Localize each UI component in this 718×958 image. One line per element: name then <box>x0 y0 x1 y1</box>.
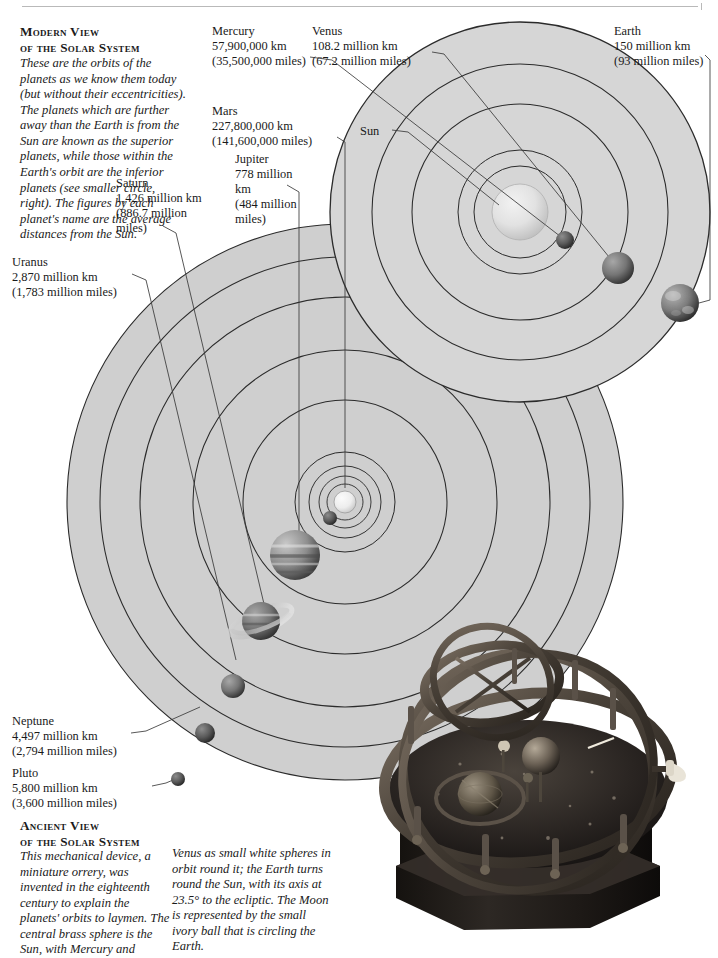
label-pluto-name: Pluto <box>12 766 117 781</box>
modern-view-title-line2: of the Solar System <box>20 40 190 56</box>
label-saturn-name: Saturn <box>116 176 202 191</box>
label-jupiter: Jupiter 778 million km (484 million mile… <box>235 152 307 226</box>
inset-sun <box>492 184 548 240</box>
label-neptune: Neptune 4,497 million km (2,794 million … <box>12 714 117 759</box>
label-venus-miles: (67.2 million miles) <box>312 54 411 69</box>
label-uranus-name: Uranus <box>12 255 117 270</box>
label-mars-km: 227,800,000 km <box>212 119 312 134</box>
label-earth: Earth 150 million km (93 million miles) <box>614 24 703 69</box>
inset-inner-system <box>330 22 710 402</box>
label-jupiter-name: Jupiter <box>235 152 307 167</box>
label-sun: Sun <box>360 124 379 139</box>
ancient-view-block: Ancient View of the Solar System This me… <box>20 818 170 958</box>
label-jupiter-miles: (484 million miles) <box>235 197 307 227</box>
label-neptune-km: 4,497 million km <box>12 729 117 744</box>
planet-mars-main <box>323 511 337 525</box>
label-uranus-km: 2,870 million km <box>12 270 117 285</box>
ancient-view-title-line1: Ancient View <box>20 818 170 834</box>
ancient-view-title-line2: of the Solar System <box>20 834 170 850</box>
label-pluto: Pluto 5,800 million km (3,600 million mi… <box>12 766 117 811</box>
label-earth-km: 150 million km <box>614 39 703 54</box>
ancient-view-body-col1: This mechanical device, a miniature orre… <box>20 849 170 958</box>
planet-venus-inset <box>602 252 634 284</box>
label-saturn-km: 1,426 million km <box>116 191 202 206</box>
label-pluto-miles: (3,600 million miles) <box>12 796 117 811</box>
planet-pluto-main <box>171 772 185 786</box>
label-venus: Venus 108.2 million km (67.2 million mil… <box>312 24 411 69</box>
label-venus-km: 108.2 million km <box>312 39 411 54</box>
label-uranus-miles: (1,783 million miles) <box>12 285 117 300</box>
modern-view-title-line1: Modern View <box>20 24 190 40</box>
label-neptune-miles: (2,794 million miles) <box>12 744 117 759</box>
orrery-photograph <box>352 566 718 951</box>
label-mercury: Mercury 57,900,000 km (35,500,000 miles) <box>212 24 306 69</box>
label-saturn-miles: (886.7 million miles) <box>116 206 202 236</box>
label-pluto-km: 5,800 million km <box>12 781 117 796</box>
planet-neptune-main <box>195 723 215 743</box>
planet-earth-inset <box>661 284 699 322</box>
label-mercury-km: 57,900,000 km <box>212 39 306 54</box>
label-venus-name: Venus <box>312 24 411 39</box>
label-neptune-name: Neptune <box>12 714 117 729</box>
planet-jupiter-main <box>270 530 320 580</box>
ancient-view-body-col2: Venus as small white spheres in orbit ro… <box>172 846 332 955</box>
planet-mercury-inset <box>556 231 574 249</box>
label-mercury-name: Mercury <box>212 24 306 39</box>
label-uranus: Uranus 2,870 million km (1,783 million m… <box>12 255 117 300</box>
sun-main <box>334 491 356 513</box>
label-mars-miles: (141,600,000 miles) <box>212 134 312 149</box>
planet-uranus-main <box>221 674 245 698</box>
label-earth-name: Earth <box>614 24 703 39</box>
orrery-venus-ball <box>523 773 533 783</box>
label-mars: Mars 227,800,000 km (141,600,000 miles) <box>212 104 312 149</box>
label-earth-miles: (93 million miles) <box>614 54 703 69</box>
label-saturn: Saturn 1,426 million km (886.7 million m… <box>116 176 202 236</box>
label-jupiter-km: 778 million km <box>235 167 307 197</box>
label-mercury-miles: (35,500,000 miles) <box>212 54 306 69</box>
orrery-brass-sun <box>522 737 560 775</box>
label-mars-name: Mars <box>212 104 312 119</box>
orrery-svg <box>352 566 718 951</box>
